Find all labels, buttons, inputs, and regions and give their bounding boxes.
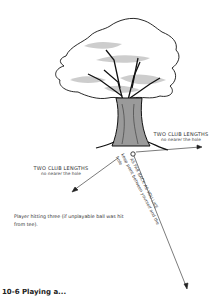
label-right-two-club-lengths: TWO CLUB LENGTHS no nearer the hole xyxy=(148,132,214,143)
tree-trunk-icon xyxy=(112,98,150,146)
player-note: Player hitting three (if unplayable ball… xyxy=(14,213,124,229)
label-left-two-club-lengths: TWO CLUB LENGTHS no nearer the hole xyxy=(26,166,96,177)
figure-caption: 10-6 Playing a... xyxy=(2,288,66,296)
